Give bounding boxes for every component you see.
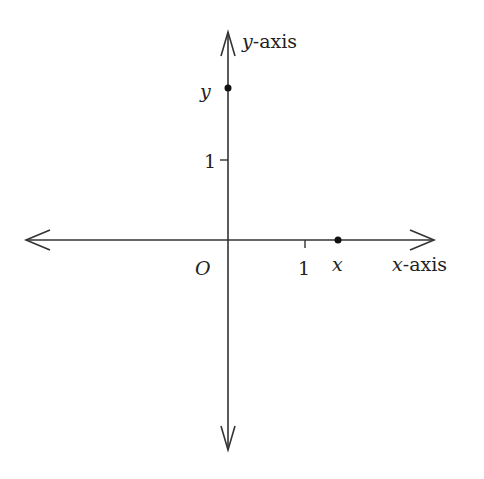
point-y-label: y	[199, 80, 211, 102]
coordinate-diagram: y-axis y 1 O 1 x x-axis	[0, 0, 484, 479]
x-tick-label: 1	[298, 257, 310, 279]
y-axis	[221, 32, 235, 450]
y-tick-label: 1	[204, 150, 216, 172]
point-x-label: x	[332, 253, 343, 275]
x-axis	[26, 230, 434, 250]
y-axis-label: y-axis	[241, 30, 297, 52]
point-x	[335, 237, 342, 244]
point-y	[225, 85, 232, 92]
origin-label: O	[195, 257, 211, 279]
x-axis-label: x-axis	[392, 253, 447, 275]
